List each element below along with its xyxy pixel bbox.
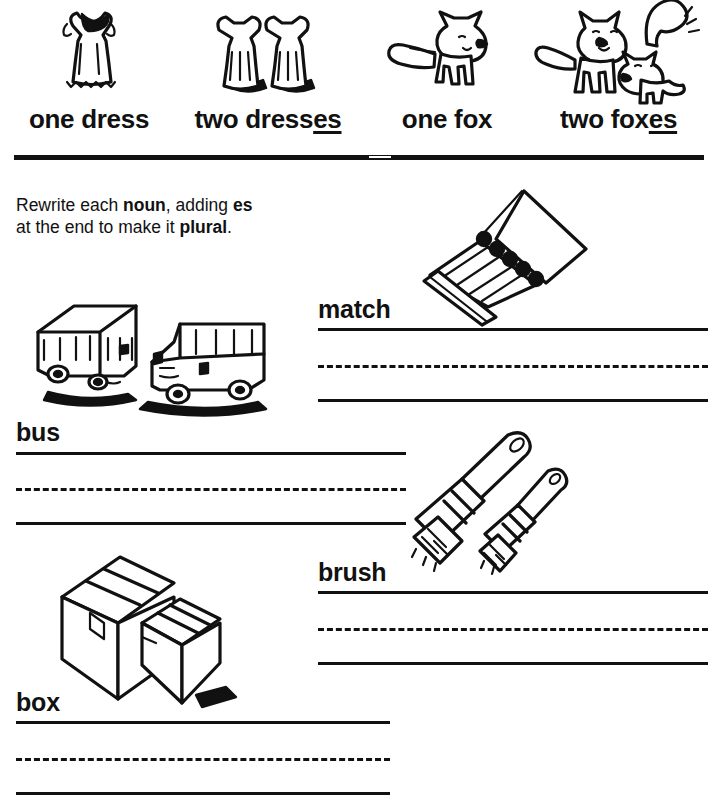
writing-line-top-box[interactable]: [16, 721, 390, 724]
buses-illustration: [20, 290, 282, 415]
matchbook-illustration: [418, 183, 598, 313]
writing-line-bottom-match[interactable]: [318, 399, 708, 402]
section-divider-rule: [14, 155, 704, 160]
caption-prefix: two dress: [195, 104, 314, 134]
example-caption: two foxes: [522, 104, 715, 135]
exercise-box: box: [16, 545, 406, 785]
boxes-illustration: [46, 545, 266, 710]
caption-prefix: two fox: [560, 104, 649, 134]
example-banner: one dress two dresses: [0, 0, 715, 150]
fox-single-illustration: [372, 2, 522, 102]
dress-single-illustration: [0, 2, 178, 102]
writing-line-middle-box[interactable]: [16, 758, 390, 761]
writing-line-bottom-box[interactable]: [16, 792, 390, 795]
exercise-word-bus: bus: [16, 418, 60, 446]
example-caption: one dress: [0, 104, 178, 135]
example-one-dress: one dress: [0, 0, 178, 148]
example-one-fox: one fox: [372, 0, 522, 148]
caption-suffix: es: [313, 104, 341, 134]
caption-prefix: one dress: [29, 104, 149, 134]
exercise-word-match: match: [318, 295, 391, 323]
writing-line-top-match[interactable]: [318, 328, 708, 331]
example-caption: one fox: [372, 104, 522, 135]
exercise-word-box: box: [16, 688, 60, 716]
writing-line-middle-match[interactable]: [318, 365, 708, 368]
exercise-match: match: [318, 185, 708, 380]
example-two-dresses: two dresses: [178, 0, 358, 148]
caption-suffix: es: [649, 104, 677, 134]
example-two-foxes: two foxes: [522, 0, 715, 148]
example-caption: two dresses: [178, 104, 358, 135]
caption-prefix: one fox: [402, 104, 492, 134]
fox-pair-illustration: [522, 2, 715, 102]
brushes-illustration: [400, 425, 600, 575]
dress-pair-illustration: [178, 2, 358, 102]
